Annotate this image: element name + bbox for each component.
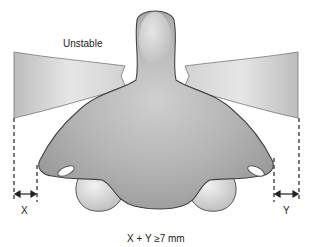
y-label: Y xyxy=(283,205,290,216)
caption: X + Y ≥7 mm xyxy=(127,233,185,244)
vertebra-illustration xyxy=(0,0,312,247)
x-label: X xyxy=(21,205,28,216)
unstable-label: Unstable xyxy=(63,38,102,49)
